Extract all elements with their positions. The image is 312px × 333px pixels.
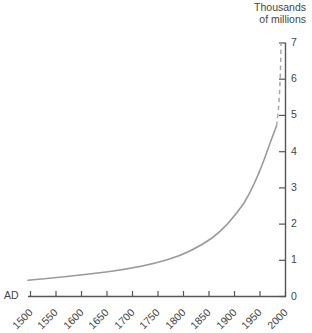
- population-curve-projection: [277, 44, 282, 127]
- y-tick-label-7: 7: [291, 36, 297, 48]
- population-growth-chart: Thousands of millions: [0, 0, 312, 333]
- y-tick-label-0: 0: [291, 290, 297, 302]
- x-axis-era-label: AD: [4, 289, 19, 301]
- plot-area: 0 1 2 3 4 5 6 7 1500 1550 1600 1650 1700…: [0, 0, 312, 333]
- y-tick-label-6: 6: [291, 72, 297, 84]
- plot-svg: [0, 0, 312, 333]
- y-tick-label-3: 3: [291, 181, 297, 193]
- y-tick-label-1: 1: [291, 253, 297, 265]
- y-tick-label-2: 2: [291, 217, 297, 229]
- x-axis-ticks: [31, 291, 286, 297]
- y-tick-label-5: 5: [291, 108, 297, 120]
- y-tick-label-4: 4: [291, 145, 297, 157]
- population-curve-solid: [28, 126, 277, 280]
